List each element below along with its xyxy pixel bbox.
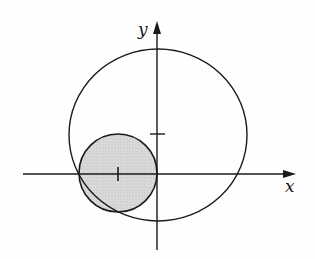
y-axis-arrow-icon (153, 21, 161, 34)
y-axis-label: y (137, 19, 148, 39)
x-axis-label: x (285, 176, 295, 196)
diagram-canvas: y x (0, 0, 315, 259)
circles-plot: y x (0, 0, 315, 259)
